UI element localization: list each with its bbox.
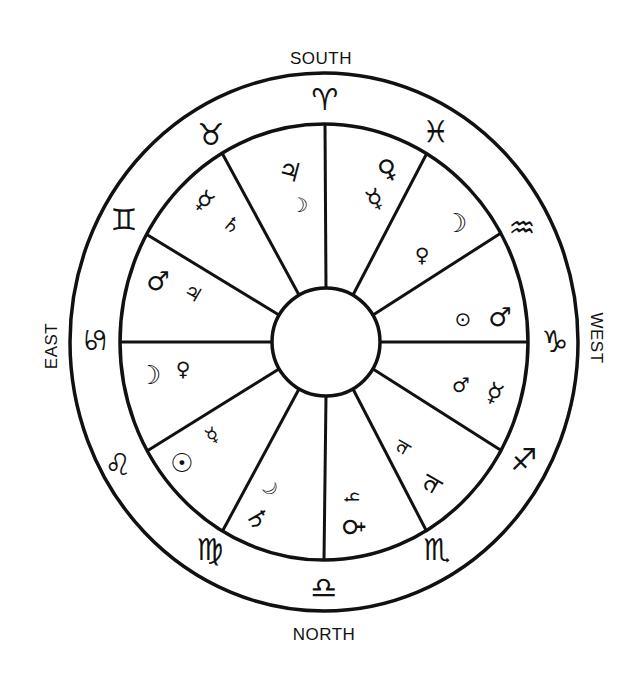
- aquarius-icon: ♒: [509, 210, 536, 245]
- capricorn-icon: ♑: [542, 324, 569, 359]
- mercury-icon: ☿: [481, 376, 508, 410]
- pisces-icon: ♓: [423, 114, 450, 149]
- mercury-icon: ☿: [201, 422, 224, 449]
- mercury-icon: ☿: [361, 182, 388, 216]
- direction-south: SOUTH: [290, 49, 352, 68]
- inner-circle: [272, 288, 380, 396]
- venus-icon: ♀: [373, 151, 403, 186]
- taurus-icon: ♉: [198, 117, 225, 152]
- gemini-icon: ♊: [111, 202, 138, 237]
- jupiter-icon: ♃: [275, 153, 305, 188]
- venus-icon: ♀: [338, 517, 368, 536]
- spoke-30: [373, 233, 501, 315]
- direction-east: EAST: [42, 323, 61, 369]
- cancer-icon: ♋: [78, 327, 113, 354]
- spoke-90: [325, 124, 326, 288]
- spoke-270: [324, 396, 326, 560]
- moon-icon: ☽: [290, 193, 308, 217]
- house-dividers: [120, 124, 528, 560]
- leo-icon: ♌: [105, 447, 132, 482]
- sun-icon: ⊙: [455, 307, 472, 331]
- direction-north: NORTH: [293, 625, 356, 644]
- spoke-300: [353, 389, 427, 532]
- sun-icon: ☉: [170, 448, 193, 478]
- mars-icon: ♂: [452, 373, 470, 397]
- mars-icon: ♂: [488, 302, 511, 332]
- mercury-icon: ☿: [189, 184, 221, 217]
- saturn-icon: ♄: [340, 488, 364, 506]
- virgo-icon: ♍: [197, 532, 224, 567]
- mars-icon: ♂: [146, 266, 169, 296]
- libra-icon: ♎: [311, 570, 338, 605]
- scorpio-icon: ♏: [424, 532, 451, 567]
- sagittarius-icon: ♐: [511, 442, 538, 477]
- chart-canvas: SOUTH NORTH EAST WEST ♈ ♉ ♊ ♋ ♌ ♍ ♎ ♏ ♐ …: [0, 0, 640, 682]
- aries-icon: ♈: [312, 82, 339, 117]
- saturn-icon: ♄: [217, 210, 246, 240]
- moon-icon: ☽: [444, 208, 467, 238]
- jupiter-icon: ♃: [413, 467, 451, 502]
- venus-icon: ♀: [415, 243, 430, 267]
- jupiter-icon: ♃: [179, 278, 207, 308]
- moon-icon: ☽: [254, 473, 284, 501]
- jupiter-icon: ♃: [388, 434, 418, 462]
- venus-icon: ♀: [176, 357, 191, 381]
- saturn-icon: ♄: [239, 501, 277, 536]
- moon-icon: ☽: [138, 360, 161, 390]
- direction-west: WEST: [587, 312, 606, 363]
- spoke-330: [373, 369, 502, 451]
